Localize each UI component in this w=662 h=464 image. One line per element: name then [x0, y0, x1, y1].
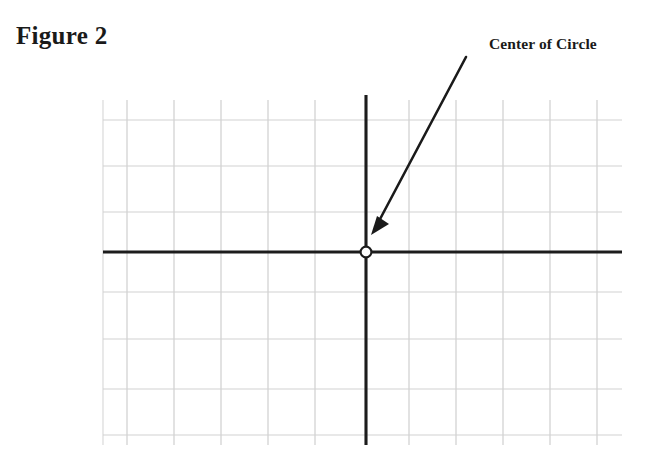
coordinate-grid-graph — [0, 0, 662, 464]
graph-svg — [0, 0, 662, 464]
center-of-circle-point — [361, 247, 372, 258]
center-of-circle-label: Center of Circle — [489, 34, 597, 53]
figure-label: Figure 2 — [16, 21, 108, 51]
horizontal-grid-lines — [103, 120, 622, 435]
figure-canvas: Figure 2 Center of Circle — [0, 0, 662, 464]
annotation-arrow-icon — [371, 57, 466, 235]
vertical-grid-lines — [103, 100, 597, 445]
